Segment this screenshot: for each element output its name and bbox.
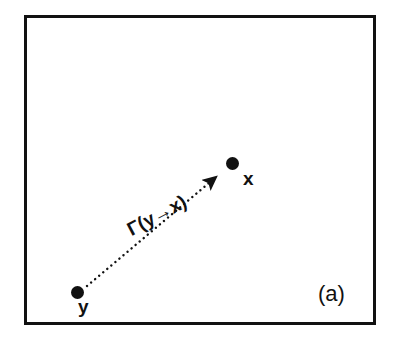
node-label-y: y <box>78 297 89 316</box>
panel-border-frame <box>24 15 376 325</box>
figure-panel-a: y x Γ(y→x) (a) <box>0 0 396 344</box>
node-dot-x <box>226 157 239 170</box>
node-label-x: x <box>243 169 254 188</box>
panel-caption: (a) <box>318 283 345 305</box>
